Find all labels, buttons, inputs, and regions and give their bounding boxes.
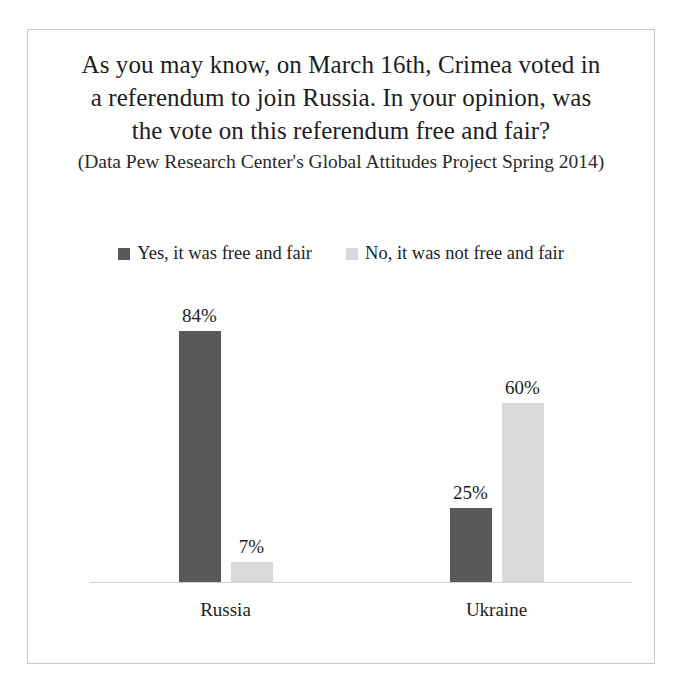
plot-area: 84%7%25%60% RussiaUkraine [90,280,632,637]
chart-figure: As you may know, on March 16th, Crimea v… [27,29,655,664]
legend-swatch-yes [118,248,130,260]
bar-value-label: 7% [239,537,264,556]
bar-rect [179,331,221,583]
bar-value-label: 84% [182,306,217,325]
category-cell: Ukraine [361,583,632,637]
bar-group-ukraine: 25%60% [361,280,632,583]
bars: 25%60% [361,280,632,583]
bar-russia-no[interactable]: 7% [231,280,273,583]
bar-rect [450,508,492,583]
bar-ukraine-no[interactable]: 60% [502,280,544,583]
legend-item-yes[interactable]: Yes, it was free and fair [118,243,312,264]
chart-subtitle: (Data Pew Research Center's Global Attit… [28,149,654,175]
category-label-russia: Russia [200,599,251,621]
legend-label-no: No, it was not free and fair [365,243,564,264]
bar-value-label: 60% [505,378,540,397]
bar-rect [502,403,544,583]
legend-item-no[interactable]: No, it was not free and fair [346,243,564,264]
bar-russia-yes[interactable]: 84% [179,280,221,583]
chart-legend: Yes, it was free and fair No, it was not… [28,243,654,264]
bar-ukraine-yes[interactable]: 25% [450,280,492,583]
legend-label-yes: Yes, it was free and fair [137,243,312,264]
legend-swatch-no [346,248,358,260]
category-label-ukraine: Ukraine [466,599,527,621]
bar-rect [231,562,273,583]
bar-group-russia: 84%7% [90,280,361,583]
category-cell: Russia [90,583,361,637]
bars: 84%7% [90,280,361,583]
category-labels: RussiaUkraine [90,583,632,637]
bar-value-label: 25% [453,483,488,502]
title-block: As you may know, on March 16th, Crimea v… [28,48,654,175]
bar-groups: 84%7%25%60% [90,280,632,583]
chart-title: As you may know, on March 16th, Crimea v… [28,48,654,147]
